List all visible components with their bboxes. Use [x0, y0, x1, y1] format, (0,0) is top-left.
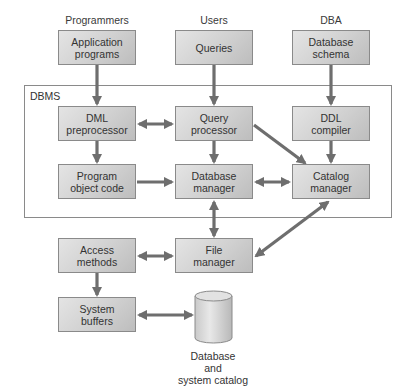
- box-dml-preprocessor: DML preprocessor: [58, 106, 136, 141]
- box-catalog-manager: Catalog manager: [292, 164, 370, 199]
- box-system-buffers: System buffers: [58, 297, 136, 332]
- box-database-manager: Database manager: [175, 164, 253, 199]
- database-cylinder-icon: [195, 291, 232, 343]
- box-query-processor: Query processor: [175, 106, 253, 141]
- box-queries: Queries: [175, 30, 253, 65]
- box-file-manager: File manager: [175, 238, 253, 273]
- box-ddl-compiler: DDL compiler: [292, 106, 370, 141]
- box-program-object-code: Program object code: [58, 164, 136, 199]
- arrow-catalog-filemanager: [256, 202, 328, 256]
- box-access-methods: Access methods: [58, 238, 136, 273]
- box-application-programs: Application programs: [58, 30, 136, 65]
- box-database-schema: Database schema: [292, 30, 370, 65]
- database-caption: Database and system catalog: [163, 350, 263, 386]
